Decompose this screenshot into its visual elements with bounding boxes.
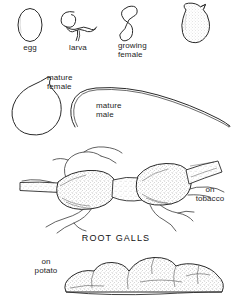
label-mature-female: mature female: [47, 73, 97, 91]
label-egg: egg: [14, 43, 46, 52]
nematode-swollen-female-icon: [182, 3, 210, 43]
label-growing-female: growing female: [118, 41, 170, 59]
nematode-growing-female-icon: [120, 6, 137, 41]
nematode-larva-icon: [61, 12, 96, 41]
caption-root-galls: ROOT GALLS: [62, 233, 170, 243]
label-on-potato: on potato: [26, 257, 66, 275]
label-mature-male: mature male: [96, 101, 142, 119]
galled-tuber-potato-icon: [65, 257, 223, 294]
label-larva: larva: [59, 43, 97, 52]
label-on-tobacco: on tobacco: [190, 185, 230, 203]
nematode-mature-male-icon: [71, 88, 231, 128]
nematode-egg-icon: [18, 9, 42, 42]
